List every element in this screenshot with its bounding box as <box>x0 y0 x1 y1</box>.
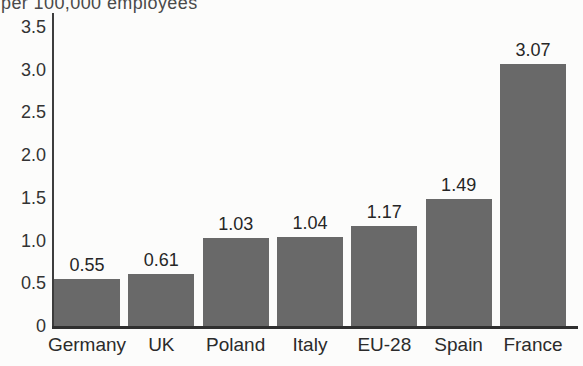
bar-value-label-italy: 1.04 <box>292 214 327 232</box>
category-label-eu-28: EU-28 <box>357 335 411 354</box>
bar-slot-uk: 0.61 <box>128 274 194 326</box>
y-tick-label-3.0: 3.0 <box>0 61 46 79</box>
category-label-uk: UK <box>148 335 174 354</box>
bar-value-label-poland: 1.03 <box>218 215 253 233</box>
category-label-germany: Germany <box>48 335 126 354</box>
category-label-spain: Spain <box>434 335 483 354</box>
bar-slot-italy: 1.04 <box>277 237 343 326</box>
y-tick-label-1.0: 1.0 <box>0 232 46 250</box>
bar-eu-28: 1.17 <box>351 226 417 326</box>
bars-group: 0.550.611.031.041.171.493.07 <box>54 0 566 326</box>
x-axis-line <box>52 326 578 329</box>
bar-value-label-uk: 0.61 <box>144 251 179 269</box>
y-tick-label-3.5: 3.5 <box>0 18 46 36</box>
bar-chart-figure: per 100,000 employees 00.51.01.52.02.53.… <box>0 0 583 366</box>
category-slot-france: France <box>500 335 566 354</box>
category-slot-germany: Germany <box>54 335 120 354</box>
bar-slot-eu-28: 1.17 <box>351 226 417 326</box>
bar-poland: 1.03 <box>203 238 269 326</box>
category-label-poland: Poland <box>206 335 265 354</box>
bar-value-label-france: 3.07 <box>515 41 550 59</box>
bar-slot-france: 3.07 <box>500 64 566 326</box>
x-axis-category-labels: GermanyUKPolandItalyEU-28SpainFrance <box>54 335 566 354</box>
bar-slot-poland: 1.03 <box>203 238 269 326</box>
category-label-france: France <box>503 335 562 354</box>
bar-germany: 0.55 <box>54 279 120 326</box>
category-slot-poland: Poland <box>203 335 269 354</box>
category-slot-eu-28: EU-28 <box>351 335 417 354</box>
bar-france: 3.07 <box>500 64 566 326</box>
bar-value-label-spain: 1.49 <box>441 176 476 194</box>
category-slot-italy: Italy <box>277 335 343 354</box>
bar-slot-spain: 1.49 <box>426 199 492 326</box>
category-slot-uk: UK <box>128 335 194 354</box>
category-label-italy: Italy <box>293 335 328 354</box>
bar-uk: 0.61 <box>128 274 194 326</box>
bar-value-label-germany: 0.55 <box>69 256 104 274</box>
y-axis-tick-labels: 00.51.01.52.02.53.03.5 <box>0 0 46 366</box>
category-slot-spain: Spain <box>426 335 492 354</box>
bar-spain: 1.49 <box>426 199 492 326</box>
y-tick-label-2.0: 2.0 <box>0 146 46 164</box>
bar-slot-germany: 0.55 <box>54 279 120 326</box>
bar-value-label-eu-28: 1.17 <box>367 203 402 221</box>
y-tick-label-1.5: 1.5 <box>0 189 46 207</box>
y-tick-label-0: 0 <box>0 317 46 335</box>
y-tick-label-2.5: 2.5 <box>0 103 46 121</box>
y-tick-label-0.5: 0.5 <box>0 274 46 292</box>
bar-italy: 1.04 <box>277 237 343 326</box>
